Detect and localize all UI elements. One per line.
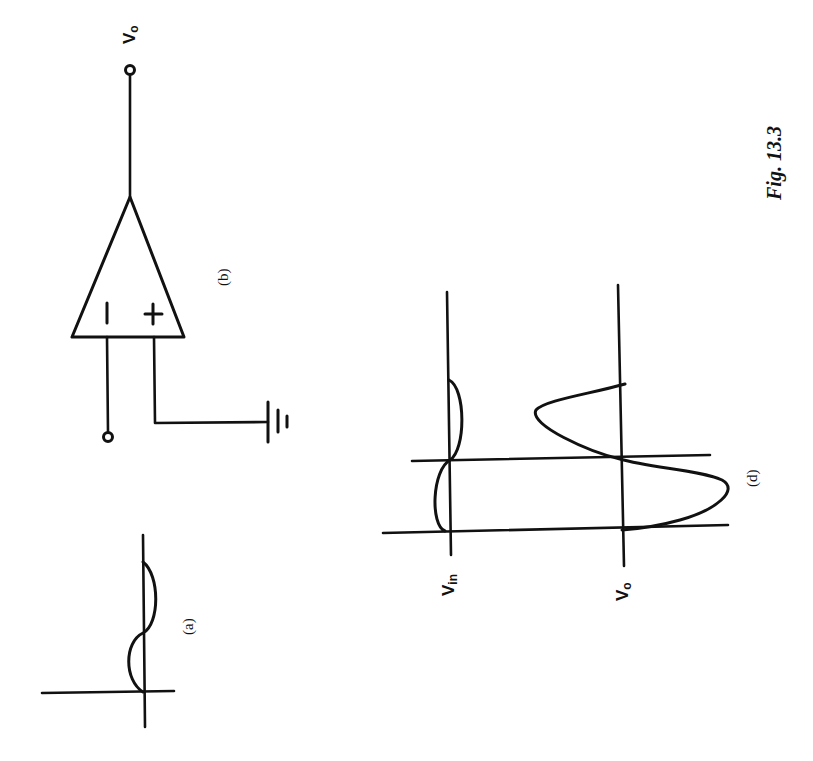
panel-b-label: (b): [215, 269, 232, 287]
output-label: Vo: [120, 25, 141, 44]
svg-text:Vo: Vo: [613, 582, 634, 601]
noninverting-input-symbol: [145, 304, 162, 324]
zero-crossing-line-2: [383, 525, 728, 533]
ground-icon: [268, 402, 287, 442]
input-terminal-icon: [104, 433, 113, 442]
output-terminal-icon: [126, 66, 135, 75]
noninverting-to-ground-wire: [154, 337, 268, 423]
zero-crossing-line-1: [412, 455, 710, 461]
panel-d-label: (d): [744, 470, 761, 488]
vo-label: Vo: [613, 582, 634, 601]
figure-caption: Fig. 13.3: [763, 126, 786, 201]
svg-text:Vo: Vo: [120, 25, 141, 44]
amplitude-axis: [42, 691, 174, 693]
panel-d-waveforms: Vin Vo (d): [383, 285, 761, 601]
vin-axis: [447, 292, 451, 555]
vin-label: Vin: [439, 574, 460, 596]
vo-axis: [618, 285, 624, 566]
panel-b-opamp-circuit: Vo (b): [72, 25, 287, 442]
opamp-triangle-icon: [72, 197, 184, 337]
inverting-input-wire: [107, 337, 108, 432]
svg-text:(a): (a): [180, 618, 197, 635]
svg-text:Fig. 13.3: Fig. 13.3: [763, 126, 786, 201]
figure-canvas: Vo (b) (a): [0, 0, 813, 761]
panel-a-input-waveform: (a): [42, 535, 197, 727]
svg-text:(b): (b): [215, 269, 232, 287]
svg-text:(d): (d): [744, 470, 761, 488]
svg-text:Vin: Vin: [439, 574, 460, 596]
panel-a-label: (a): [180, 618, 197, 635]
